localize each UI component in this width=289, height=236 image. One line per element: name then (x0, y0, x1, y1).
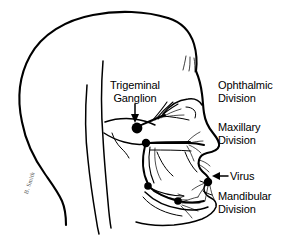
label-mandibular-division: Mandibular Division (218, 190, 289, 215)
hair-stroke-2 (189, 57, 190, 71)
label-ophthalmic-division: Ophthalmic Division (218, 79, 289, 104)
mental-fan-1 (182, 197, 198, 202)
virus-pointer-head (212, 172, 220, 180)
mandibular-trunk-inner (149, 147, 154, 183)
maxillary-trunk (149, 142, 190, 143)
mandibular-upper-node (144, 182, 152, 190)
mandible-condyle-line (112, 133, 129, 158)
label-trigeminal-ganglion: Trigeminal Ganglion (96, 79, 174, 104)
virus-lip-node (204, 178, 212, 186)
mandibular-lower-node (174, 197, 182, 205)
trigeminal-nerve-diagram: Trigeminal Ganglion Ophthalmic Division … (0, 0, 289, 236)
maxilla-lower-line (150, 150, 191, 151)
nasolabial-line (185, 152, 197, 172)
maxillary-branch-1 (188, 132, 200, 141)
jaw-ramus-line (86, 85, 99, 234)
label-virus: Virus (230, 170, 288, 183)
mandibular-trunk-fine (155, 148, 161, 180)
face-profile-outline (196, 71, 219, 179)
maxillary-branch-3 (189, 145, 201, 153)
maxillary-node (142, 139, 150, 147)
cheek-contour-line (157, 152, 173, 176)
forehead-outline (168, 18, 197, 71)
hair-stroke-1 (183, 56, 186, 70)
label-maxillary-division: Maxillary Division (218, 121, 289, 146)
mandibular-trunk-outer (143, 146, 148, 184)
hair-stroke-3 (194, 58, 195, 72)
zygomatic-arch-line (104, 133, 145, 144)
orbit-inner-line (186, 107, 196, 118)
trigeminal-ganglion-node (132, 123, 143, 134)
